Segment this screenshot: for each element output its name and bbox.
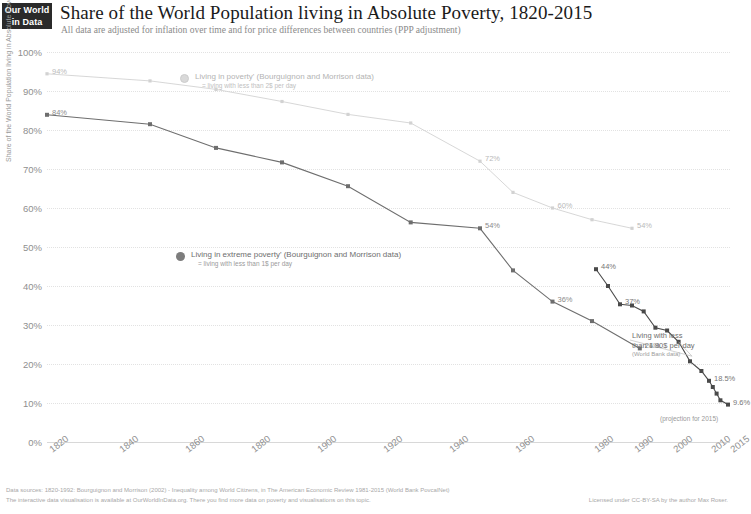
data-point[interactable]: [618, 302, 622, 306]
series-lines: [47, 52, 730, 442]
data-point-label: 37%: [625, 297, 640, 306]
data-point[interactable]: [726, 403, 730, 407]
data-point[interactable]: [346, 184, 350, 188]
y-tick-label: 60%: [23, 203, 42, 214]
data-point[interactable]: [511, 268, 515, 272]
series-line: [47, 74, 632, 229]
data-point[interactable]: [551, 300, 555, 304]
data-point[interactable]: [45, 113, 49, 117]
data-point-label: 44%: [601, 262, 616, 271]
legend-extreme-sublabel: = living with less than 1$ per day: [198, 260, 292, 267]
projection-note: (projection for 2015): [660, 415, 718, 422]
world-bank-annotation: Living with less than 1.90$ per day (Wor…: [632, 331, 695, 360]
data-point[interactable]: [148, 122, 152, 126]
legend-poverty-label: Living in poverty' (Bourguignon and Morr…: [195, 72, 374, 81]
data-point-label: 60%: [558, 201, 573, 210]
data-point-label: 9.6%: [733, 397, 750, 406]
data-point[interactable]: [590, 319, 594, 323]
data-point[interactable]: [478, 160, 481, 163]
data-point[interactable]: [148, 79, 151, 82]
data-point[interactable]: [606, 284, 610, 288]
data-point-label: 54%: [485, 221, 500, 230]
data-point[interactable]: [409, 220, 413, 224]
data-point[interactable]: [214, 146, 218, 150]
y-tick-label: 80%: [23, 125, 42, 136]
data-point[interactable]: [280, 100, 283, 103]
data-point-label: 18.5%: [714, 373, 735, 382]
chart-title: Share of the World Population living in …: [60, 2, 592, 24]
data-point[interactable]: [711, 385, 715, 389]
y-tick-label: 90%: [23, 86, 42, 97]
data-point[interactable]: [551, 206, 554, 209]
data-point[interactable]: [642, 309, 646, 313]
data-point[interactable]: [478, 226, 482, 230]
data-point-label: 54%: [637, 221, 652, 230]
y-tick-label: 100%: [18, 47, 42, 58]
data-point[interactable]: [45, 72, 48, 75]
data-point-label: 94%: [52, 66, 67, 75]
data-point-label: 72%: [485, 154, 500, 163]
series-line: [47, 115, 640, 349]
y-tick-label: 20%: [23, 359, 42, 370]
data-point-label: 84%: [52, 107, 67, 116]
data-point[interactable]: [590, 218, 593, 221]
data-point[interactable]: [653, 326, 657, 330]
legend-extreme-label: Living in extreme poverty' (Bourguignon …: [191, 250, 401, 259]
legend-extreme-marker: [176, 252, 185, 261]
footer-licence: Licensed under CC-BY-SA by the author Ma…: [589, 496, 728, 506]
data-point-label: 36%: [558, 294, 573, 303]
x-tick-label: 2015: [728, 433, 751, 455]
y-tick-label: 30%: [23, 320, 42, 331]
data-point[interactable]: [630, 227, 633, 230]
data-point[interactable]: [707, 379, 711, 383]
annotation-line-2: than 1.90$ per day: [632, 341, 695, 351]
y-axis-title: Share of the World Population living in …: [5, 0, 12, 162]
data-point[interactable]: [688, 359, 692, 363]
legend-poverty-marker: [180, 74, 189, 83]
data-point[interactable]: [699, 369, 703, 373]
y-tick-label: 10%: [23, 398, 42, 409]
y-tick-label: 0%: [28, 437, 42, 448]
data-point[interactable]: [280, 160, 284, 164]
data-point[interactable]: [594, 267, 598, 271]
y-tick-label: 70%: [23, 164, 42, 175]
annotation-source: (World Bank data): [632, 350, 695, 360]
data-point[interactable]: [718, 398, 722, 402]
data-point[interactable]: [346, 113, 349, 116]
y-tick-label: 40%: [23, 281, 42, 292]
annotation-line-1: Living with less: [632, 331, 695, 341]
plot-area: Share of the World Population living in …: [47, 52, 730, 442]
data-point[interactable]: [409, 121, 412, 124]
data-point[interactable]: [715, 392, 719, 396]
footer-data-sources: Data sources: 1820-1992: Bourguignon and…: [6, 486, 732, 496]
y-tick-label: 50%: [23, 242, 42, 253]
legend-poverty-sublabel: = living with less than 2$ per day: [202, 82, 296, 89]
data-point[interactable]: [511, 191, 514, 194]
footer: Data sources: 1820-1992: Bourguignon and…: [6, 486, 732, 505]
chart-subtitle: All data are adjusted for inflation over…: [61, 25, 461, 35]
